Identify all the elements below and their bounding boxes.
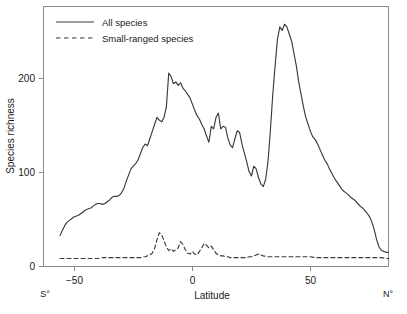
y-axis-title: Species richness [5, 98, 16, 174]
south-pole-label: S° [40, 289, 50, 299]
y-tick-label-0: 0 [29, 261, 35, 272]
x-tick-label-minus50: −50 [66, 275, 83, 286]
x-tick-label-0: 0 [190, 275, 196, 286]
chart-canvas: 0 100 200 Species richness −50 0 50 Lati… [0, 0, 407, 314]
legend-label-all-species: All species [102, 17, 148, 28]
legend-label-small-ranged: Small-ranged species [102, 33, 194, 44]
north-pole-label: N° [383, 289, 393, 299]
x-tick-label-50: 50 [305, 275, 317, 286]
x-axis-title: Latitude [194, 290, 230, 301]
species-richness-latitude-chart: 0 100 200 Species richness −50 0 50 Lati… [0, 0, 407, 314]
y-tick-label-100: 100 [18, 167, 35, 178]
y-tick-label-200: 200 [18, 73, 35, 84]
